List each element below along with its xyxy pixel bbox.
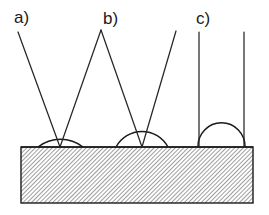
panel-b-group: b) <box>101 9 176 147</box>
contact-angle-diagram: a) b) c) <box>0 0 269 215</box>
panel-c-group: c) <box>196 9 245 147</box>
droplet-a-ray-left <box>18 32 60 147</box>
panel-label-b: b) <box>103 9 118 28</box>
substrate-group <box>21 147 253 203</box>
substrate-block <box>21 147 253 203</box>
figure-root: a) b) c) <box>0 0 269 215</box>
droplet-c-arc <box>198 123 245 147</box>
panel-a-group: a) <box>14 8 101 147</box>
droplet-b-arc <box>116 131 168 147</box>
panel-label-c: c) <box>196 9 210 28</box>
panel-label-a: a) <box>14 8 29 27</box>
droplet-b-ray-right <box>142 31 176 147</box>
droplet-b-ray-left <box>101 30 142 147</box>
droplet-a-ray-right <box>60 30 101 147</box>
